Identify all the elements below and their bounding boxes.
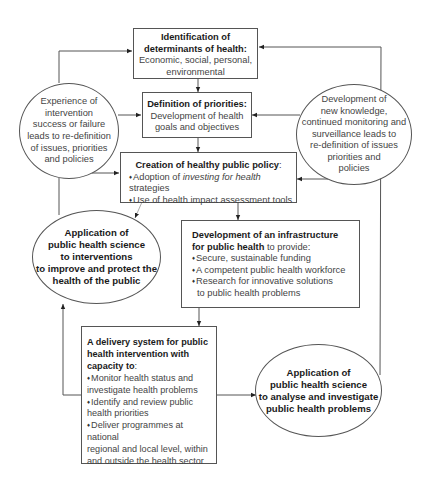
determinants-body-2: environmental [166,67,224,77]
delivery-title-2: health intervention with [87,349,189,359]
box-delivery-system: A delivery system for public health inte… [81,326,217,464]
infrastructure-bullet-3: Research for innovative solutions [192,276,359,288]
infrastructure-title-2: for public health [192,242,264,252]
policy-bullet-2: Use of health impact assessment tools [129,195,296,207]
box-healthy-public-policy: Creation of healthy public policy: Adopt… [120,152,297,203]
determinants-title-2: determinants of health: [144,44,247,54]
infrastructure-bullet-1: Secure, sustainable funding [192,253,359,265]
delivery-bullet-1: Monitor health status and [87,373,216,385]
priorities-title: Definition of priorities: [147,99,247,109]
ellipse-application-analyse: Application of public health science to … [255,344,382,437]
infrastructure-bullet-2: A competent public health workforce [192,265,359,277]
circle-new-knowledge: Development of new knowledge, continued … [296,84,412,185]
infrastructure-title-1: Development of an infrastructure [192,230,338,240]
delivery-bullet-2: Identify and review public [87,397,216,409]
delivery-title-1: A delivery system for public [87,337,208,347]
delivery-bullet-3: Deliver programmes at national [87,420,216,444]
delivery-title-3: capacity to [87,361,135,371]
delivery-bullet-3-cont-2: and outside the health sector [87,456,216,468]
delivery-bullet-1-cont: investigate health problems [87,385,216,397]
delivery-bullet-2-cont: health priorities [87,408,216,420]
box-definition-of-priorities: Definition of priorities: Development of… [142,92,252,138]
priorities-body-1: Development of health [150,111,243,121]
delivery-bullet-3-cont-1: regional and local level, within [87,444,216,456]
priorities-body-2: goals and objectives [155,122,239,132]
box-public-health-infrastructure: Development of an infrastructure for pub… [181,220,360,308]
ellipse-application-interventions: Application of public health science to … [32,210,161,304]
determinants-body-1: Economic, social, personal, [139,55,252,65]
policy-bullet-1: Adoption of investing for health strateg… [129,172,296,195]
policy-title: Creation of healthy public policy [135,160,279,170]
circle-intervention-experience: Experience of intervention success or fa… [19,83,119,179]
determinants-title-1: Identification of [161,32,230,42]
infrastructure-bullet-3-cont: to public health problems [192,288,359,300]
box-determinants-of-health: Identification of determinants of health… [133,28,258,79]
